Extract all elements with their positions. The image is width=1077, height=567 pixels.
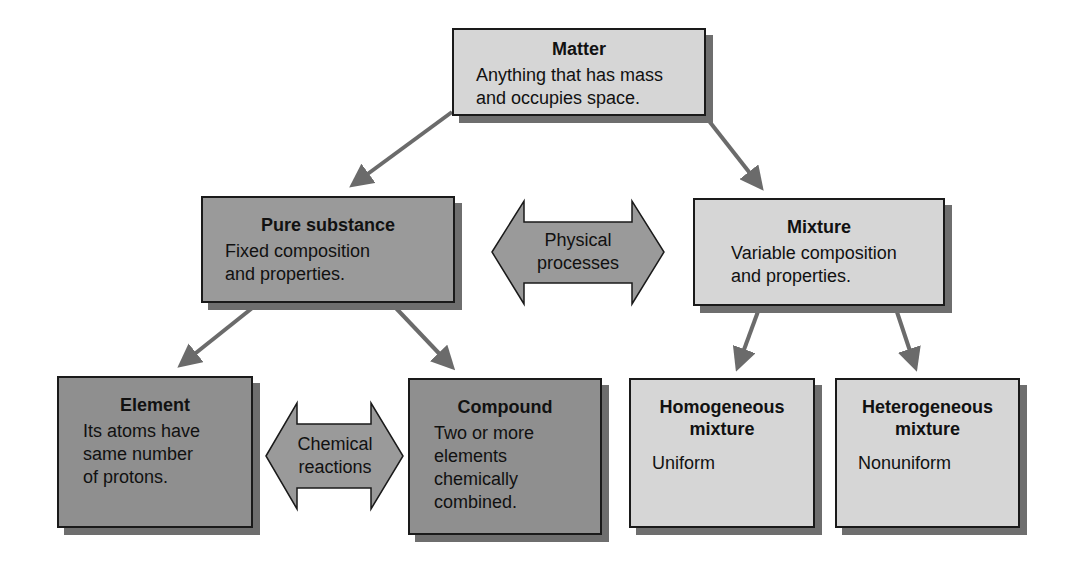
node-element: Element Its atoms have same number of pr… bbox=[57, 376, 253, 528]
description-line: Two or more bbox=[434, 422, 590, 445]
node-title: Heterogeneous mixture bbox=[847, 396, 1008, 440]
node-matter: Matter Anything that has mass and occupi… bbox=[452, 28, 706, 116]
node-pure-substance: Pure substance Fixed composition and pro… bbox=[201, 196, 455, 303]
title-line: mixture bbox=[641, 418, 803, 440]
description-line: and occupies space. bbox=[476, 87, 694, 110]
description-line: of protons. bbox=[83, 466, 241, 489]
label-line: processes bbox=[524, 252, 632, 275]
description-line: elements bbox=[434, 445, 590, 468]
physical-processes-label: Physical processes bbox=[524, 229, 632, 275]
label-line: Physical bbox=[524, 229, 632, 252]
node-description: Its atoms have same number of protons. bbox=[69, 420, 241, 489]
description-line: Fixed composition bbox=[225, 240, 443, 263]
description-line: same number bbox=[83, 443, 241, 466]
edge-pure-substance-to-element bbox=[182, 305, 256, 364]
description-line: and properties. bbox=[225, 263, 443, 286]
node-title: Homogeneous mixture bbox=[641, 396, 803, 440]
node-description: Nonuniform bbox=[847, 452, 1008, 475]
node-mixture: Mixture Variable composition and propert… bbox=[693, 198, 945, 306]
title-line: Homogeneous bbox=[641, 396, 803, 418]
description-line: and properties. bbox=[731, 265, 933, 288]
label-line: reactions bbox=[280, 456, 390, 479]
node-title: Element bbox=[69, 394, 241, 416]
node-description: Fixed composition and properties. bbox=[213, 240, 443, 286]
node-title: Mixture bbox=[705, 216, 933, 238]
description-line: chemically bbox=[434, 468, 590, 491]
node-description: Two or more elements chemically combined… bbox=[420, 422, 590, 514]
description-line: Anything that has mass bbox=[476, 64, 694, 87]
node-description: Uniform bbox=[641, 452, 803, 475]
node-compound: Compound Two or more elements chemically… bbox=[408, 378, 602, 535]
label-line: Chemical bbox=[280, 433, 390, 456]
node-title: Pure substance bbox=[213, 214, 443, 236]
edge-matter-to-pure-substance bbox=[354, 112, 452, 184]
node-title: Compound bbox=[420, 396, 590, 418]
edge-matter-to-mixture bbox=[702, 112, 760, 186]
chemical-reactions-label: Chemical reactions bbox=[280, 433, 390, 479]
node-heterogeneous-mixture: Heterogeneous mixture Nonuniform bbox=[835, 378, 1020, 528]
description-line: Its atoms have bbox=[83, 420, 241, 443]
description-line: combined. bbox=[434, 491, 590, 514]
node-description: Variable composition and properties. bbox=[705, 242, 933, 288]
node-description: Anything that has mass and occupies spac… bbox=[464, 64, 694, 110]
edge-mixture-to-homogeneous bbox=[738, 306, 760, 366]
edge-mixture-to-heterogeneous bbox=[895, 306, 915, 366]
title-line: Heterogeneous bbox=[847, 396, 1008, 418]
node-homogeneous-mixture: Homogeneous mixture Uniform bbox=[629, 378, 815, 528]
node-title: Matter bbox=[464, 38, 694, 60]
edge-pure-substance-to-compound bbox=[393, 305, 451, 366]
title-line: mixture bbox=[847, 418, 1008, 440]
description-line: Variable composition bbox=[731, 242, 933, 265]
